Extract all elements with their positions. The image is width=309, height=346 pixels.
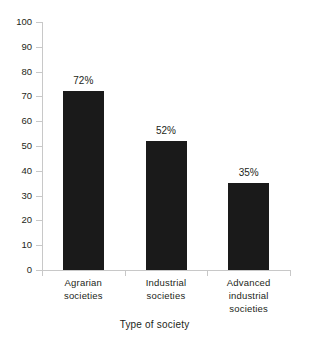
- x-axis-category-label-line: societies: [207, 302, 290, 315]
- bar-value-label: 35%: [219, 168, 279, 178]
- y-axis-tick-label: 20: [0, 215, 32, 225]
- y-axis-tick-label: 30: [0, 191, 32, 201]
- y-axis-tick-label: 0: [0, 265, 32, 275]
- x-axis-category-label: Agrariansocieties: [42, 276, 125, 302]
- y-axis-tick-label: 90: [0, 42, 32, 52]
- x-axis-category-label-line: societies: [125, 289, 208, 302]
- x-axis-category-label: Industrialsocieties: [125, 276, 208, 302]
- x-axis-tick-mark: [290, 271, 291, 276]
- x-axis-category-label-line: Industrial: [125, 276, 208, 289]
- x-axis-category-label-line: industrial: [207, 289, 290, 302]
- bar-chart: 0102030405060708090100 72%52%35% Agraria…: [0, 0, 309, 346]
- y-axis-tick-label: 40: [0, 166, 32, 176]
- x-axis-title: Type of society: [0, 320, 309, 330]
- y-axis-tick-label: 100: [0, 17, 32, 27]
- x-axis-category-label-line: Advanced: [207, 276, 290, 289]
- x-axis-category-label: Advancedindustrialsocieties: [207, 276, 290, 315]
- x-axis-category-label-line: Agrarian: [42, 276, 125, 289]
- bar: [228, 183, 269, 270]
- y-axis-line: [42, 22, 43, 271]
- bar: [63, 91, 104, 270]
- bar-value-label: 52%: [136, 126, 196, 136]
- y-axis-tick-label: 70: [0, 91, 32, 101]
- y-axis-tick-label: 60: [0, 116, 32, 126]
- y-axis-tick-label: 50: [0, 141, 32, 151]
- x-axis-category-label-line: societies: [42, 289, 125, 302]
- y-axis-tick-label: 80: [0, 67, 32, 77]
- bar-value-label: 72%: [53, 76, 113, 86]
- bar: [146, 141, 187, 270]
- x-axis-line: [42, 270, 291, 271]
- y-axis-tick-label: 10: [0, 240, 32, 250]
